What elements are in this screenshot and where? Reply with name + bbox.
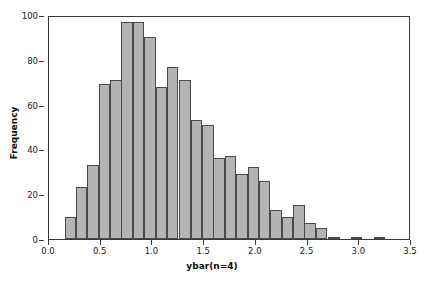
histogram-bar: [87, 165, 98, 239]
y-tick-label: 60: [27, 101, 38, 110]
histogram-bar: [167, 67, 178, 239]
histogram-bars: [49, 17, 409, 239]
y-tick-label: 80: [27, 57, 38, 66]
histogram-bar: [156, 87, 167, 239]
x-tick-mark: [48, 240, 49, 245]
histogram-bar: [270, 210, 281, 239]
histogram-bar: [282, 217, 293, 239]
x-tick-label: 2.5: [300, 247, 314, 256]
y-tick-mark: [39, 195, 44, 196]
x-axis-label: ybar(n=4): [0, 261, 424, 271]
histogram-bar: [65, 217, 76, 239]
y-tick-mark: [39, 150, 44, 151]
histogram-bar: [316, 228, 327, 239]
x-tick-label: 3.0: [352, 247, 366, 256]
y-tick-mark: [39, 16, 44, 17]
histogram-bar: [304, 223, 315, 239]
x-tick-label: 0.5: [93, 247, 107, 256]
histogram-bar: [133, 22, 144, 239]
x-tick-mark: [151, 240, 152, 245]
histogram-bar: [121, 22, 132, 239]
x-tick-mark: [100, 240, 101, 245]
histogram-bar: [110, 80, 121, 239]
y-tick-label: 40: [27, 146, 38, 155]
histogram-bar: [76, 187, 87, 239]
histogram-bar: [99, 84, 110, 239]
histogram-bar: [225, 156, 236, 239]
histogram-bar: [144, 37, 155, 239]
y-axis: Frequency 020406080100: [0, 0, 48, 281]
x-tick-mark: [255, 240, 256, 245]
x-tick-label: 0.0: [41, 247, 55, 256]
x-axis: ybar(n=4) 0.00.51.01.52.02.53.03.5: [0, 240, 424, 281]
x-tick-mark: [410, 240, 411, 245]
y-tick-mark: [39, 106, 44, 107]
x-tick-label: 1.5: [196, 247, 210, 256]
x-tick-mark: [358, 240, 359, 245]
histogram-bar: [293, 205, 304, 239]
histogram-bar: [351, 237, 362, 239]
histogram-bar: [179, 80, 190, 239]
x-tick-label: 3.5: [403, 247, 417, 256]
histogram-bar: [236, 174, 247, 239]
x-tick-label: 1.0: [145, 247, 159, 256]
histogram-bar: [213, 158, 224, 239]
plot-area: [48, 16, 410, 240]
y-tick-mark: [39, 61, 44, 62]
histogram-figure: Frequency 020406080100 ybar(n=4) 0.00.51…: [0, 0, 424, 281]
y-axis-label: Frequency: [9, 73, 19, 193]
x-tick-mark: [307, 240, 308, 245]
x-tick-label: 2.0: [248, 247, 262, 256]
y-tick-label: 100: [22, 12, 38, 21]
histogram-bar: [248, 167, 259, 239]
x-tick-mark: [203, 240, 204, 245]
histogram-bar: [259, 181, 270, 239]
histogram-bar: [374, 237, 385, 239]
histogram-bar: [202, 125, 213, 239]
histogram-bar: [191, 120, 202, 239]
histogram-bar: [328, 237, 339, 239]
y-tick-label: 20: [27, 191, 38, 200]
